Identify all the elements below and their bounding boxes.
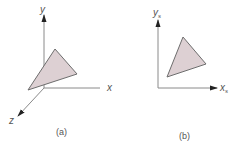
triangle-projected bbox=[167, 37, 206, 77]
diagram-canvas: y x z (a) ys xs (b) bbox=[0, 0, 240, 151]
triangle-3d bbox=[28, 49, 77, 90]
z-axis-label: z bbox=[8, 115, 14, 126]
ys-axis-label: ys bbox=[152, 7, 161, 19]
panel-b: ys xs (b) bbox=[152, 7, 228, 141]
x-axis-label: x bbox=[106, 82, 113, 93]
caption-b: (b) bbox=[179, 131, 190, 141]
y-axis-label: y bbox=[39, 4, 46, 15]
z-axis-arrow bbox=[18, 88, 44, 116]
xs-axis-label: xs bbox=[219, 82, 228, 94]
panel-a: y x z (a) bbox=[8, 4, 113, 137]
caption-a: (a) bbox=[56, 127, 67, 137]
